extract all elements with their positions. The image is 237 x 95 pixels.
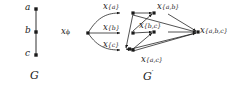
vertex-dot-b xyxy=(34,30,37,33)
edge-c-abc-chord xyxy=(133,33,196,51)
node-dot-bc xyxy=(152,30,155,33)
caption-right-prime: ′ xyxy=(152,69,154,77)
node-label-abc: x{a,b,c} xyxy=(200,26,228,35)
caption-right-base: G xyxy=(143,70,152,83)
node-label-ab: x{a,b} xyxy=(157,2,179,11)
node-dot-a xyxy=(131,11,134,14)
vertex-dot-a xyxy=(34,7,37,10)
node-label-c: x{c} xyxy=(103,40,119,49)
node-subscript-ab: {a,b} xyxy=(162,3,180,10)
vertex-dot-c xyxy=(34,53,37,56)
vertex-label-b: b xyxy=(25,26,31,35)
node-subscript-ac: {a,c} xyxy=(146,56,163,63)
left-graph-g xyxy=(34,7,37,56)
node-label-b: x{b} xyxy=(103,23,120,32)
node-dot-b xyxy=(131,31,134,34)
node-label-a: x{a} xyxy=(103,2,119,11)
node-dot-ab xyxy=(152,11,155,14)
edge-b-bc xyxy=(133,32,152,33)
node-subscript-b: {b} xyxy=(108,24,120,31)
node-subscript-bc: {b,c} xyxy=(144,22,161,29)
node-subscript-c: {c} xyxy=(108,41,119,48)
caption-right-graph: G′ xyxy=(143,70,153,82)
node-label-ac: x{a,c} xyxy=(141,55,163,64)
node-label-empty: xϕ xyxy=(61,27,70,36)
node-dot-c xyxy=(131,48,134,51)
node-dot-ac xyxy=(128,47,131,50)
node-subscript-abc: {a,b,c} xyxy=(205,27,228,34)
node-label-bc: x{b,c} xyxy=(139,21,161,30)
figure-container: a b c xϕ x{a} x{b} x{c} x{a,b} x{b,c} x{… xyxy=(0,0,237,95)
node-dot-empty xyxy=(86,31,89,34)
vertex-label-a: a xyxy=(25,3,30,12)
node-subscript-a: {a} xyxy=(108,3,120,10)
vertex-label-c: c xyxy=(25,49,30,58)
caption-left-graph: G xyxy=(30,70,39,81)
node-subscript-empty: ϕ xyxy=(66,28,70,35)
edge-a-ac xyxy=(126,14,133,48)
